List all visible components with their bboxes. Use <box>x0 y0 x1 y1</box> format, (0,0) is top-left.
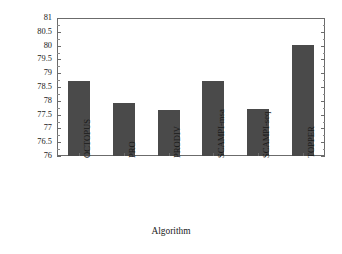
y-tick-mark-left <box>57 128 61 129</box>
y-tick-mark-right <box>321 156 325 157</box>
y-tick-minor-right <box>323 135 326 136</box>
y-tick-label-text: 77 <box>44 122 52 133</box>
x-tick-label-text: PRODIV <box>173 126 182 158</box>
y-tick-minor-left <box>57 94 60 95</box>
y-tick-label-text: 78.5 <box>37 81 52 92</box>
y-tick-mark-left <box>57 101 61 102</box>
y-tick-label-text: 76 <box>44 150 52 161</box>
y-tick-minor-right <box>323 39 326 40</box>
x-tick-label-text: SCAMPI-seq <box>262 112 271 158</box>
y-tick-label-text: 79.5 <box>37 53 52 64</box>
y-tick-minor-left <box>57 122 60 123</box>
y-tick-minor-left <box>57 135 60 136</box>
y-tick-minor-right <box>323 66 326 67</box>
y-tick-mark-right <box>321 18 325 19</box>
y-tick-minor-left <box>57 80 60 81</box>
y-tick-label-text: 78 <box>44 95 52 106</box>
y-tick-mark-left <box>57 156 61 157</box>
y-tick-label-text: 81 <box>44 12 52 23</box>
x-axis-title: Algorithm <box>0 226 342 236</box>
y-tick-mark-left <box>57 115 61 116</box>
y-tick-minor-left <box>57 39 60 40</box>
y-tick-mark-left <box>57 59 61 60</box>
y-tick-minor-left <box>57 66 60 67</box>
y-tick-mark-left <box>57 46 61 47</box>
y-tick-minor-right <box>323 80 326 81</box>
x-tick-label-text: OCTOPUS <box>83 119 92 158</box>
y-tick-mark-left <box>57 18 61 19</box>
y-tick-mark-right <box>321 73 325 74</box>
x-tick-mark <box>258 153 259 156</box>
y-tick-minor-right <box>323 94 326 95</box>
y-tick-minor-right <box>323 25 326 26</box>
y-tick-label-text: 76.5 <box>37 136 52 147</box>
x-tick-mark <box>124 153 125 156</box>
y-tick-mark-right <box>321 46 325 47</box>
bar-chart-figure: Prediction accuracy of residue 8180.5807… <box>0 0 342 254</box>
y-tick-mark-right <box>321 32 325 33</box>
y-tick-label-text: 79 <box>44 67 52 78</box>
y-tick-mark-right <box>321 142 325 143</box>
y-tick-label-text: 80 <box>44 40 52 51</box>
y-tick-mark-right <box>321 128 325 129</box>
y-tick-mark-left <box>57 73 61 74</box>
y-tick-label-text: 77.5 <box>37 109 52 120</box>
y-tick-mark-left <box>57 32 61 33</box>
y-tick-minor-right <box>323 149 326 150</box>
y-tick-label-text: 80.5 <box>37 26 52 37</box>
y-tick-mark-right <box>321 87 325 88</box>
y-tick-minor-left <box>57 149 60 150</box>
x-tick-label-text: PRO <box>128 141 137 158</box>
y-tick-minor-right <box>323 108 326 109</box>
y-tick-minor-right <box>323 122 326 123</box>
y-tick-mark-right <box>321 115 325 116</box>
x-tick-mark <box>169 153 170 156</box>
x-tick-mark <box>303 153 304 156</box>
y-tick-minor-right <box>323 53 326 54</box>
plot-area <box>57 18 325 156</box>
y-tick-mark-left <box>57 87 61 88</box>
y-tick-mark-left <box>57 142 61 143</box>
x-tick-label-text: TOPPER <box>307 126 316 158</box>
y-tick-minor-left <box>57 25 60 26</box>
x-tick-mark <box>213 153 214 156</box>
y-tick-mark-right <box>321 101 325 102</box>
x-tick-mark <box>79 153 80 156</box>
y-tick-mark-right <box>321 59 325 60</box>
x-tick-label-text: SCAMPI-msa <box>217 109 226 158</box>
y-tick-minor-left <box>57 53 60 54</box>
y-tick-minor-left <box>57 108 60 109</box>
